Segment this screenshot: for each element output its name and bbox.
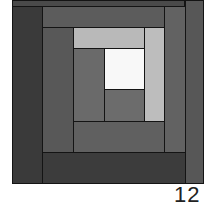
center-bottom-strip: [104, 89, 145, 122]
right-light-strip: [144, 27, 165, 122]
bottom-second-strip: [73, 121, 165, 153]
left-outer-strip: [12, 6, 43, 184]
left-inner-strip: [73, 48, 105, 122]
right-outer-strip: [185, 0, 204, 184]
block-number-label: 12: [174, 184, 200, 203]
center-square: [104, 48, 145, 90]
left-second-strip: [42, 27, 74, 153]
bottom-outer-strip: [42, 152, 186, 184]
right-second-strip: [164, 6, 186, 153]
top-second-strip: [42, 6, 165, 28]
top-light-strip: [73, 27, 145, 49]
